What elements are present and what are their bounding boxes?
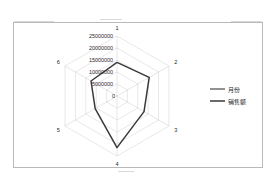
radial-tick-label: 0	[112, 93, 115, 99]
radial-tick-label: 5000000	[92, 81, 113, 87]
axis-spoke	[117, 66, 169, 96]
radial-tick-label: 10000000	[89, 69, 113, 75]
category-label-3: 3	[174, 127, 177, 133]
radial-tick-label: 25000000	[89, 33, 113, 39]
series-line-sales	[91, 62, 149, 147]
legend: 月份 销售额	[210, 86, 246, 106]
legend-label-month: 月份	[228, 86, 240, 94]
category-label-5: 5	[57, 127, 60, 133]
legend-label-sales: 销售额	[228, 98, 246, 106]
radar-chart: 0500000010000000150000002000000025000000…	[0, 0, 276, 185]
category-label-6: 6	[57, 59, 60, 65]
axis-spoke	[117, 96, 169, 126]
category-label-2: 2	[174, 59, 177, 65]
category-label-4: 4	[115, 161, 118, 167]
radar-chart-svg: 0500000010000000150000002000000025000000…	[0, 0, 276, 185]
category-label-1: 1	[115, 25, 118, 31]
scan-speckles	[14, 19, 262, 172]
axis-spoke	[65, 96, 117, 126]
radar-spokes	[65, 36, 169, 156]
radial-tick-label: 15000000	[89, 57, 113, 63]
radial-tick-label: 20000000	[89, 45, 113, 51]
